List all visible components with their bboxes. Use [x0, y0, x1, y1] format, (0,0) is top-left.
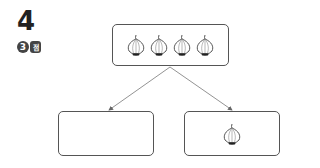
answer-box-left[interactable] [58, 111, 154, 156]
onion-icon [195, 33, 215, 57]
given-box-right [184, 111, 280, 156]
onion-icon [149, 33, 169, 57]
arrow-left [109, 67, 170, 110]
total-box [112, 24, 229, 66]
onion-icon [222, 122, 242, 146]
onion-icon [172, 33, 192, 57]
onion-icon [126, 33, 146, 57]
arrow-right [170, 67, 232, 110]
